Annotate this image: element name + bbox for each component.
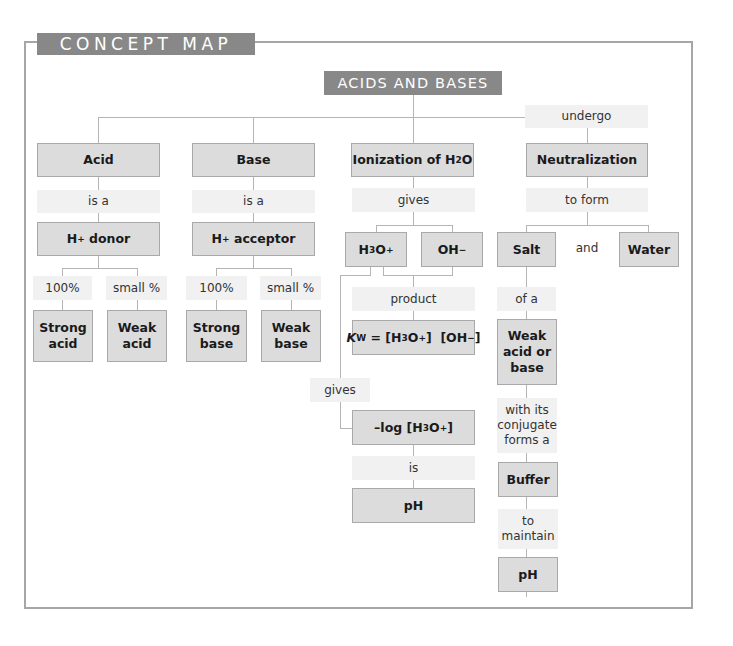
link-to-form: to form [526,188,648,212]
connector [340,428,352,429]
link-is-a: is a [192,190,315,213]
node-buffer: Buffer [498,462,558,497]
link-of-a: of a [497,287,556,311]
node-neutralization: Neutralization [526,143,648,177]
label-and: and [567,241,607,255]
connector [340,275,371,276]
connector [526,225,527,232]
link-to-maintain: tomaintain [498,509,558,549]
link-is-a: is a [37,190,160,213]
frame-title: CONCEPT MAP [37,33,255,55]
node-weak-acid-or-base: Weakacid orbase [497,319,557,385]
link-100-percent: 100% [33,276,92,300]
node-ph-maintained: pH [498,557,558,592]
node-hydroxide: OH− [421,232,483,267]
node-weak-base: Weakbase [261,310,321,362]
connector [526,225,649,226]
link-undergo: undergo [525,105,648,128]
connector [98,117,99,143]
link-product: product [352,287,475,311]
connector [452,225,453,232]
link-gives-2: gives [310,378,370,402]
link-gives: gives [352,188,475,212]
connector [62,268,138,269]
node-strong-base: Strongbase [186,310,247,362]
node-water: Water [619,232,679,267]
link-small-percent: small % [260,276,321,300]
connector [216,268,292,269]
connector [98,256,99,268]
link-100-percent: 100% [186,276,247,300]
node-hydronium: H3O+ [345,232,407,267]
node-kw-equation: KW = [H3O+] [OH−] [352,320,475,355]
connector [587,128,588,143]
connector [413,95,414,143]
link-small-percent: small % [106,276,167,300]
node-ionization-of-water: Ionization of H2O [351,143,474,177]
link-is: is [352,456,475,480]
link-with-its-conjugate: with itsconjugateforms a [497,398,557,453]
node-strong-acid: Strongacid [33,310,93,362]
node-acid: Acid [37,143,160,177]
node-neg-log-hydronium: –log [H3O+] [352,410,475,445]
node-base: Base [192,143,315,177]
node-h-acceptor: H+ acceptor [192,222,315,256]
connector [253,256,254,268]
connector [376,225,377,232]
node-ph: pH [352,488,475,523]
connector [383,267,384,275]
connector [253,117,254,143]
connector [340,275,341,428]
connector [383,275,453,276]
root-node-acids-and-bases: ACIDS AND BASES [324,71,502,95]
connector [452,267,453,275]
node-h-donor: H+ donor [37,222,160,256]
node-salt: Salt [497,232,556,267]
connector [370,267,371,275]
connector [98,117,525,118]
connector [376,225,453,226]
node-weak-acid: Weakacid [107,310,167,362]
connector [648,225,649,232]
